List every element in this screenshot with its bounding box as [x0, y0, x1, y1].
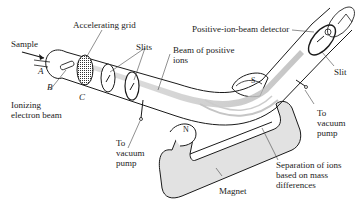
label-vacuum-pump-right: To vacuum pump [317, 108, 346, 138]
label-point-b: B [47, 82, 53, 92]
label-magnet: Magnet [219, 186, 247, 196]
label-point-a: A [38, 66, 44, 76]
label-sample: Sample [11, 39, 38, 49]
ion-source [22, 50, 75, 79]
label-slit: Slit [334, 67, 347, 77]
label-point-c: C [79, 92, 85, 102]
label-pole-s: S [251, 76, 255, 86]
accelerating-grid [77, 55, 93, 85]
mass-spectrometer-diagram: Sample Accelerating grid Slits Beam of p… [0, 0, 359, 208]
label-vacuum-pump-left: To vacuum pump [116, 138, 145, 168]
label-separation-of-ions: Separation of ions based on mass differe… [276, 160, 342, 190]
label-accelerating-grid: Accelerating grid [73, 20, 136, 30]
label-ionizing-electron-beam: Ionizing electron beam [11, 100, 62, 120]
label-positive-ion-beam-detector: Positive-ion-beam detector [192, 24, 289, 34]
label-slits: Slits [136, 42, 152, 52]
label-pole-n: N [183, 125, 189, 135]
label-beam-positive-ions: Beam of positive ions [173, 45, 235, 65]
slit-disks [101, 64, 139, 100]
